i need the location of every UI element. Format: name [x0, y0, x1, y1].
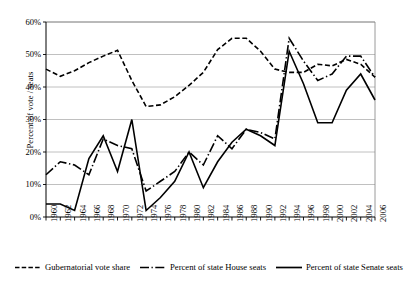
chart-legend: Gubernatorial vote share Percent of stat…: [0, 256, 418, 278]
x-tick-label: 1994: [293, 205, 302, 222]
x-tick-label: 1996: [307, 205, 316, 222]
y-tick-label: 20%: [5, 148, 41, 157]
y-tick-label: 40%: [5, 83, 41, 92]
legend-label-gubernatorial: Gubernatorial vote share: [45, 262, 130, 272]
x-tick-label: 1998: [322, 205, 331, 222]
x-tick-label: 1976: [164, 205, 173, 222]
x-tick-label: 2002: [350, 205, 359, 222]
y-tick-label: 0%: [5, 213, 41, 222]
x-tick-label: 1972: [136, 205, 145, 222]
x-tick-label: 2006: [379, 205, 388, 222]
x-tick-label: 1974: [150, 205, 159, 222]
legend-entry-house: Percent of state House seats: [140, 262, 266, 272]
x-tick-label: 1978: [179, 205, 188, 222]
x-tick-label: 1980: [193, 205, 202, 222]
legend-entry-gubernatorial: Gubernatorial vote share: [15, 262, 130, 272]
solid-line-swatch: [276, 263, 302, 272]
x-tick-label: 1982: [207, 205, 216, 222]
legend-label-senate: Percent of state Senate seats: [306, 262, 403, 272]
x-tick-label: 1970: [122, 205, 131, 222]
y-tick-label: 10%: [5, 180, 41, 189]
x-tick-label: 1984: [222, 205, 231, 222]
y-tick-label: 50%: [5, 50, 41, 59]
x-tick-label: 2004: [365, 205, 374, 222]
x-tick-label: 1968: [107, 205, 116, 222]
x-tick-label: 1992: [279, 205, 288, 222]
legend-entry-senate: Percent of state Senate seats: [276, 262, 403, 272]
y-tick-label: 30%: [5, 115, 41, 124]
series-line-3: [46, 51, 375, 210]
dashed-line-swatch: [15, 263, 41, 272]
y-tick-label: 60%: [5, 18, 41, 27]
x-tick-label: 1962: [64, 205, 73, 222]
dash-dot-line-swatch: [140, 263, 166, 272]
x-tick-label: 2000: [336, 205, 345, 222]
x-tick-label: 1960: [50, 205, 59, 222]
chart-figure: Percent of vote / seats 0%10%20%30%40%50…: [0, 0, 418, 281]
y-axis-title: Percent of vote / seats: [25, 20, 35, 200]
x-tick-label: 1988: [250, 205, 259, 222]
x-tick-label: 1966: [93, 205, 102, 222]
legend-label-house: Percent of state House seats: [170, 262, 266, 272]
x-tick-label: 1964: [79, 205, 88, 222]
x-tick-label: 1986: [236, 205, 245, 222]
plot-area: [0, 0, 418, 281]
series-line-1: [46, 38, 375, 106]
x-tick-label: 1990: [265, 205, 274, 222]
